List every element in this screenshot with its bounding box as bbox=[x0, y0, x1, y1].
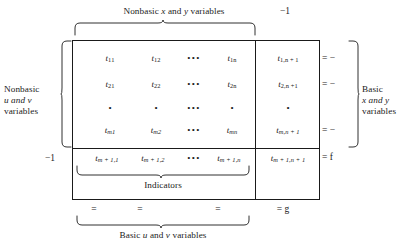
indicator-cell-c2: tm + 1,2 bbox=[124, 153, 182, 163]
bottom-group-label-text: Basic u and v variables bbox=[119, 230, 206, 240]
matrix-ellipsis-r2: ••• bbox=[176, 79, 212, 89]
matrix-ellipsis-rm: ••• bbox=[176, 125, 212, 135]
matrix-vdot-cn: • bbox=[214, 103, 250, 113]
indicator-row-equation: = f bbox=[322, 152, 352, 162]
bottom-group-label: Basic u and v variables bbox=[66, 230, 260, 241]
bottom-aug-equals: = g bbox=[258, 204, 308, 214]
bottom-equals-2: = bbox=[122, 204, 158, 214]
matrix-cell-rmc1: tm1 bbox=[92, 125, 128, 135]
bottom-equals-1: = bbox=[76, 204, 112, 214]
matrix-cell-r2cn: t2n bbox=[214, 79, 250, 89]
tableau-horizontal-divider bbox=[72, 148, 320, 149]
matrix-aug-cell-rm: tm,n + 1 bbox=[258, 125, 318, 135]
indicators-brace-icon bbox=[76, 166, 250, 179]
matrix-cell-r2c2: t22 bbox=[138, 79, 174, 89]
matrix-vdot-c2: • bbox=[138, 103, 174, 113]
bottom-brace-icon bbox=[76, 216, 250, 229]
right-group-label-line1: Basic bbox=[362, 84, 413, 95]
left-group-label: Nonbasic u and v variables bbox=[4, 84, 60, 117]
indicator-row-left-label: −1 bbox=[36, 153, 64, 163]
matrix-aug-vdot: • bbox=[258, 103, 318, 113]
indicator-aug-cell: tm + 1,n + 1 bbox=[256, 153, 320, 163]
matrix-ellipsis-r1: ••• bbox=[176, 53, 212, 63]
left-group-label-line1: Nonbasic bbox=[4, 84, 60, 95]
right-group-label-line3: variables bbox=[362, 106, 413, 117]
matrix-vdot-c1: • bbox=[92, 103, 128, 113]
matrix-aug-cell-r1: t1,n + 1 bbox=[258, 53, 318, 63]
matrix-cell-r1c1: t11 bbox=[92, 53, 128, 63]
matrix-ellipsis-rdots: ••• bbox=[176, 103, 212, 113]
figure-canvas: Nonbasic x and y variables −1 Nonbasic u… bbox=[0, 0, 413, 252]
matrix-cell-r1c2: t12 bbox=[138, 53, 174, 63]
tableau-vertical-divider bbox=[255, 40, 256, 200]
top-brace-label: Nonbasic x and y variables bbox=[84, 6, 264, 17]
left-group-label-line3: variables bbox=[4, 106, 60, 117]
indicators-label: Indicators bbox=[76, 180, 250, 191]
left-group-label-line2: u and v bbox=[4, 95, 60, 106]
top-brace-label-text: Nonbasic x and y variables bbox=[123, 6, 224, 16]
row-equation-rm: = − bbox=[322, 125, 350, 135]
right-group-label: Basic x and y variables bbox=[362, 84, 413, 117]
top-brace-icon bbox=[74, 20, 256, 36]
bottom-equals-3: = bbox=[200, 204, 236, 214]
right-group-label-line2: x and y bbox=[362, 95, 413, 106]
matrix-cell-r2c1: t21 bbox=[92, 79, 128, 89]
indicator-cell-cn: tm + 1,n bbox=[200, 153, 258, 163]
matrix-aug-cell-r2: t2,n +1 bbox=[258, 79, 318, 89]
row-equation-r2: = − bbox=[322, 79, 350, 89]
matrix-cell-rmcn: tmn bbox=[214, 125, 250, 135]
matrix-cell-rmc2: tm2 bbox=[138, 125, 174, 135]
top-right-minus-one-text: −1 bbox=[280, 6, 290, 16]
top-right-minus-one-label: −1 bbox=[265, 6, 305, 16]
left-brace-icon bbox=[61, 40, 72, 148]
matrix-cell-r1cn: t1n bbox=[214, 53, 250, 63]
row-equation-r1: = − bbox=[322, 53, 350, 63]
